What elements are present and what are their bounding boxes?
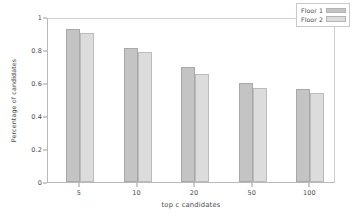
x-tick-mark [251,183,252,187]
bar-floor-1-5 [66,29,80,182]
y-tick-label: 0.8 [31,47,42,55]
bar-floor-2-50 [253,88,267,182]
x-axis-ticks: 5102050100 [47,183,335,203]
x-tick-label: 5 [77,189,81,197]
x-tick-label: 10 [132,189,140,197]
legend-item: Floor 1 [301,7,346,15]
x-tick-label: 100 [303,189,316,197]
y-tick-label: 0.6 [31,80,42,88]
y-tick-label: 0.2 [31,146,42,154]
bar-floor-2-100 [310,93,324,182]
x-axis-title: top c candidates [47,201,335,209]
x-tick-label: 50 [247,189,255,197]
x-tick-mark [136,183,137,187]
y-axis-ticks: 00.20.40.60.81 [0,18,47,183]
y-tick-label: 0.4 [31,113,42,121]
legend-swatch [326,8,346,14]
bar-floor-2-10 [138,52,152,182]
bar-floor-2-20 [195,74,209,182]
bar-floor-1-10 [124,48,138,182]
chart-legend: Floor 1Floor 2 [296,3,350,27]
legend-swatch [326,16,346,22]
x-tick-label: 20 [190,189,198,197]
legend-label: Floor 2 [301,16,323,23]
legend-label: Floor 1 [301,7,323,14]
x-tick-mark [78,183,79,187]
x-tick-mark [309,183,310,187]
y-tick-label: 1 [38,14,42,22]
bar-floor-1-50 [239,83,253,182]
y-tick-label: 0 [38,179,42,187]
bar-floor-1-100 [296,89,310,182]
bar-floor-2-5 [80,33,94,182]
plot-area [47,18,335,183]
bar-chart-figure: Percentage of candidates 00.20.40.60.81 … [0,0,355,220]
x-tick-mark [194,183,195,187]
bar-floor-1-20 [181,67,195,183]
legend-item: Floor 2 [301,15,346,23]
